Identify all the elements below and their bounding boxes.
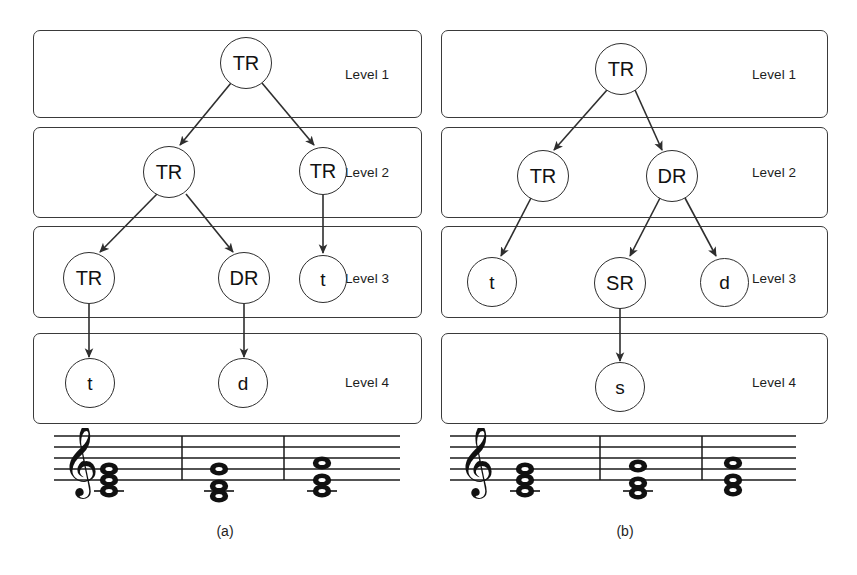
- node-b-l2-tr[interactable]: TR: [517, 150, 569, 202]
- chord-a-3: [307, 458, 337, 497]
- node-label: t: [489, 273, 494, 292]
- node-b-l3-t[interactable]: t: [467, 257, 517, 307]
- treble-clef-icon: 𝄞: [458, 428, 495, 499]
- staff-b: 𝄞: [448, 428, 798, 508]
- node-label: TR: [530, 166, 557, 186]
- node-a-l2-right[interactable]: TR: [299, 147, 347, 195]
- node-label: t: [87, 374, 92, 393]
- node-a-l4-d[interactable]: d: [218, 358, 268, 408]
- node-b-l4-s[interactable]: s: [595, 362, 645, 412]
- node-label: d: [238, 374, 249, 393]
- node-label: TR: [156, 162, 183, 182]
- node-a-l3-tr[interactable]: TR: [63, 252, 115, 304]
- node-a-root[interactable]: TR: [220, 37, 272, 89]
- node-b-l2-dr[interactable]: DR: [646, 150, 698, 202]
- level-label-a-2: Level 2: [345, 165, 389, 180]
- level-label-a-1: Level 1: [345, 67, 389, 82]
- node-label: d: [719, 273, 730, 292]
- node-label: TR: [76, 268, 103, 288]
- node-a-l3-t[interactable]: t: [299, 255, 347, 303]
- node-a-l4-t[interactable]: t: [65, 358, 115, 408]
- caption-a: (a): [195, 523, 255, 539]
- staff-a: 𝄞: [52, 428, 402, 508]
- node-label: TR: [310, 161, 337, 181]
- node-label: t: [320, 270, 325, 289]
- node-a-l3-dr[interactable]: DR: [218, 252, 270, 304]
- node-label: DR: [230, 268, 259, 288]
- level-label-a-3: Level 3: [345, 271, 389, 286]
- level-label-b-4: Level 4: [752, 375, 796, 390]
- node-label: DR: [658, 166, 687, 186]
- treble-clef-icon: 𝄞: [62, 428, 99, 499]
- chord-b-3: [725, 458, 741, 496]
- node-a-l2-left[interactable]: TR: [143, 146, 195, 198]
- node-label: TR: [233, 53, 260, 73]
- caption-b: (b): [595, 523, 655, 539]
- level-label-a-4: Level 4: [345, 375, 389, 390]
- node-label: TR: [608, 59, 635, 79]
- node-label: s: [615, 378, 625, 397]
- node-label: SR: [606, 273, 634, 293]
- node-b-l3-d[interactable]: d: [700, 258, 749, 307]
- figure-root: Level 1 Level 2 Level 3 Level 4: [0, 0, 857, 575]
- node-b-root[interactable]: TR: [595, 43, 647, 95]
- level-label-b-3: Level 3: [752, 271, 796, 286]
- node-b-l3-sr[interactable]: SR: [594, 257, 646, 309]
- level-label-b-2: Level 2: [752, 165, 796, 180]
- level-label-b-1: Level 1: [752, 67, 796, 82]
